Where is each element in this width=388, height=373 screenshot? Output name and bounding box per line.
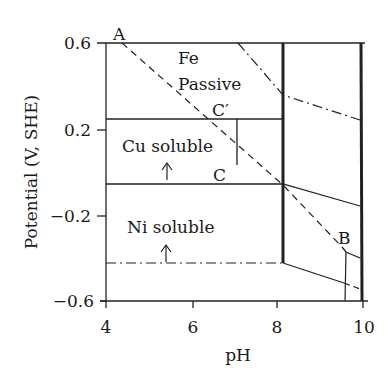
y-tick--0.6: −0.6 bbox=[53, 291, 94, 311]
x-tick-8: 8 bbox=[272, 317, 283, 337]
point-label-A: A bbox=[112, 24, 126, 44]
x-axis-title: pH bbox=[225, 345, 251, 365]
x-tick-6: 6 bbox=[188, 317, 199, 337]
ni-lower-sloping bbox=[283, 263, 344, 283]
arrow-up-icon bbox=[162, 163, 172, 180]
label-fe: Fe bbox=[178, 48, 199, 68]
arrow-up-icon bbox=[161, 245, 171, 262]
point-label-C: C bbox=[213, 165, 226, 185]
ph-9-9-boundary bbox=[361, 43, 362, 301]
cu-lower-line bbox=[106, 184, 360, 206]
y-tick-0.2: 0.2 bbox=[64, 120, 91, 140]
upper-dashdot-line bbox=[238, 43, 360, 120]
y-tick-0.6: 0.6 bbox=[64, 33, 91, 53]
label-passive: Passive bbox=[178, 74, 241, 94]
y-tick--0.2: −0.2 bbox=[50, 206, 91, 226]
label-ni-soluble: Ni soluble bbox=[127, 217, 214, 237]
ni-lower-sloping-dashed bbox=[344, 283, 360, 289]
point-label-B: B bbox=[338, 228, 351, 248]
x-tick-labels: 4 6 8 10 bbox=[101, 317, 375, 337]
b-vertical bbox=[345, 252, 346, 301]
y-tick-labels: 0.6 0.2 −0.2 −0.6 bbox=[50, 33, 94, 311]
x-tick-10: 10 bbox=[353, 317, 375, 337]
pourbaix-chart: 0.6 0.2 −0.2 −0.6 4 6 8 10 pH Potential … bbox=[0, 0, 388, 373]
point-label-C-prime: C′ bbox=[212, 100, 229, 120]
region-labels: Fe Passive Cu soluble Ni soluble A C′ C … bbox=[112, 24, 351, 248]
label-cu-soluble: Cu soluble bbox=[122, 136, 213, 156]
y-axis-title: Potential (V, SHE) bbox=[21, 95, 41, 249]
b-segment bbox=[342, 247, 360, 258]
arrows bbox=[161, 163, 172, 262]
x-tick-4: 4 bbox=[101, 317, 112, 337]
